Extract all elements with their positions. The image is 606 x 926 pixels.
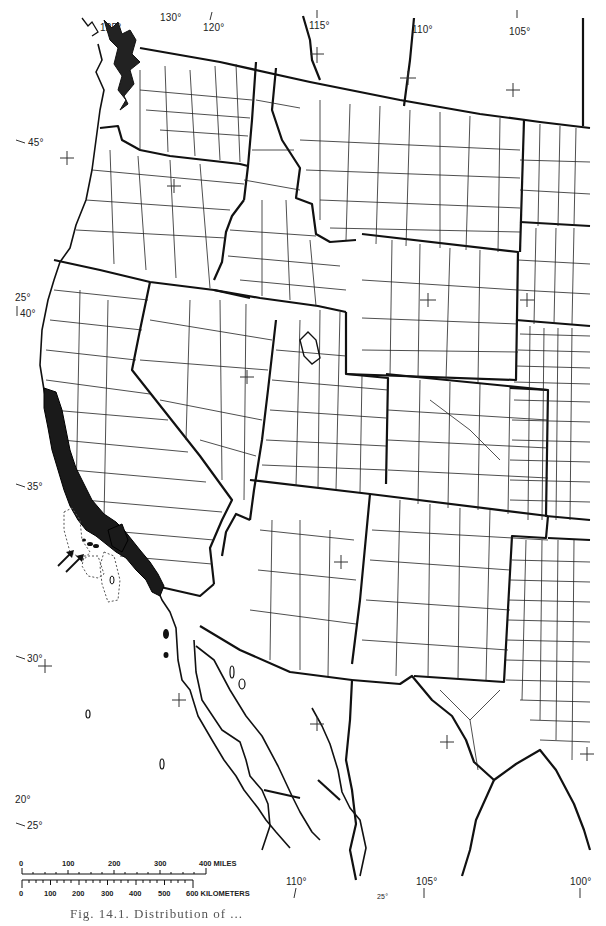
scale-km-label: 500: [158, 889, 171, 898]
scale-miles-label: 200: [108, 859, 121, 868]
longitude-label: 110°: [412, 24, 433, 35]
island-arrows: [58, 550, 84, 572]
islands: [86, 629, 245, 769]
latitude-label: 25°: [27, 820, 43, 831]
scale-km-label: 0: [19, 889, 23, 898]
graticule-crosses: [38, 47, 594, 761]
longitude-label: 100°: [570, 876, 591, 887]
scale-km-label: 300: [101, 889, 114, 898]
scale-km-label: 100: [44, 889, 57, 898]
graticule-ticks: [16, 10, 580, 898]
latitude-label: 40°: [20, 308, 36, 319]
longitude-label: 125°: [100, 22, 121, 33]
latitude-label: 35°: [27, 481, 43, 492]
county-boundaries: [46, 64, 590, 770]
scale-km-label: 200: [72, 889, 85, 898]
latitude-label: 45°: [28, 137, 44, 148]
scale-miles-label: 0: [19, 859, 23, 868]
longitude-label: 120°: [203, 22, 224, 33]
longitude-label: 25°: [377, 893, 388, 900]
map-canvas: [0, 0, 606, 926]
longitude-label: 115°: [309, 20, 330, 31]
scale-miles-label: 400 MILES: [199, 859, 237, 868]
scale-km-label: 600 KILOMETERS: [186, 889, 250, 898]
scale-km-label: 400: [129, 889, 142, 898]
scale-miles-label: 100: [62, 859, 75, 868]
latitude-label: 30°: [27, 653, 43, 664]
longitude-label: 105°: [509, 26, 530, 37]
us-canada-border: [140, 48, 590, 128]
latitude-label: 20°: [15, 794, 31, 805]
longitude-label: 105°: [416, 876, 437, 887]
longitude-label: 130°: [160, 12, 181, 23]
state-borders: [54, 62, 590, 880]
scale-miles-label: 300: [154, 859, 167, 868]
longitude-label: 110°: [286, 876, 307, 887]
scale-bar: [22, 868, 206, 888]
figure-caption: Fig. 14.1. Distribution of ...: [70, 906, 550, 926]
distribution-range: [44, 388, 164, 602]
latitude-label: 25°: [15, 292, 31, 303]
